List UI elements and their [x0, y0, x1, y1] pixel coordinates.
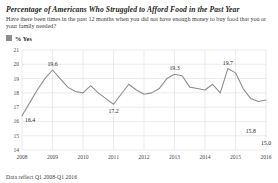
- chart-subtitle: Have there been times in the past 12 mon…: [6, 16, 272, 31]
- plot-area: 2120191817161514200820092010201120122013…: [6, 45, 272, 163]
- chart-page: Percentage of Americans Who Struggled to…: [0, 0, 278, 183]
- x-axis-tick-label: 2010: [77, 154, 88, 160]
- data-point-label: 19.6: [47, 61, 57, 67]
- line-chart: 2120191817161514200820092010201120122013…: [6, 45, 272, 163]
- data-point-label: 19.7: [223, 59, 233, 65]
- data-point-label: 16.4: [25, 117, 35, 123]
- y-axis-tick-label: 19: [13, 75, 19, 81]
- y-axis-tick-label: 18: [13, 90, 19, 96]
- y-axis-tick-label: 16: [13, 118, 19, 124]
- x-axis-tick-label: 2009: [47, 154, 58, 160]
- legend: % Yes: [6, 34, 272, 43]
- x-axis-tick-label: 2012: [138, 154, 149, 160]
- legend-label: % Yes: [15, 35, 32, 42]
- x-axis-tick-label: 2008: [16, 154, 27, 160]
- x-axis-tick-label: 2013: [169, 154, 180, 160]
- page-title: Percentage of Americans Who Struggled to…: [6, 5, 272, 14]
- legend-swatch-icon: [6, 35, 12, 41]
- x-axis-tick-label: 2011: [108, 154, 119, 160]
- y-axis-tick-label: 15: [13, 133, 19, 139]
- y-axis-tick-label: 20: [13, 61, 19, 67]
- data-point-label: 17.2: [108, 108, 118, 114]
- data-point-label: 15.0: [261, 140, 271, 146]
- x-axis-tick-label: 2014: [199, 154, 210, 160]
- y-axis-tick-label: 14: [13, 147, 19, 153]
- y-axis-tick-label: 17: [13, 104, 19, 110]
- x-axis-tick-label: 2016: [260, 154, 271, 160]
- chart-footnote: Data reflect Q1 2008-Q1 2016: [6, 174, 77, 180]
- y-axis-tick-label: 21: [13, 47, 19, 53]
- data-point-label: 19.3: [169, 65, 179, 71]
- x-axis-tick-label: 2015: [230, 154, 241, 160]
- data-point-label: 15.8: [246, 128, 256, 134]
